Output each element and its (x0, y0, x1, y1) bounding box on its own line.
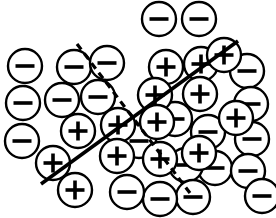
plus-marker (61, 114, 95, 148)
minus-marker (8, 49, 42, 83)
plus-marker (182, 136, 216, 170)
minus-marker (143, 182, 177, 216)
minus-marker (110, 175, 144, 209)
minus-marker (182, 2, 216, 36)
decision-boundary-figure (0, 0, 276, 218)
plus-marker (58, 173, 92, 207)
minus-marker (45, 83, 79, 117)
minus-marker (5, 124, 39, 158)
minus-marker (6, 86, 40, 120)
plus-marker (219, 101, 253, 135)
plus-marker (183, 77, 217, 111)
figure-canvas (0, 0, 276, 218)
plus-marker (100, 139, 134, 173)
minus-marker (142, 2, 176, 36)
minus-marker (90, 46, 124, 80)
minus-marker (245, 179, 276, 213)
